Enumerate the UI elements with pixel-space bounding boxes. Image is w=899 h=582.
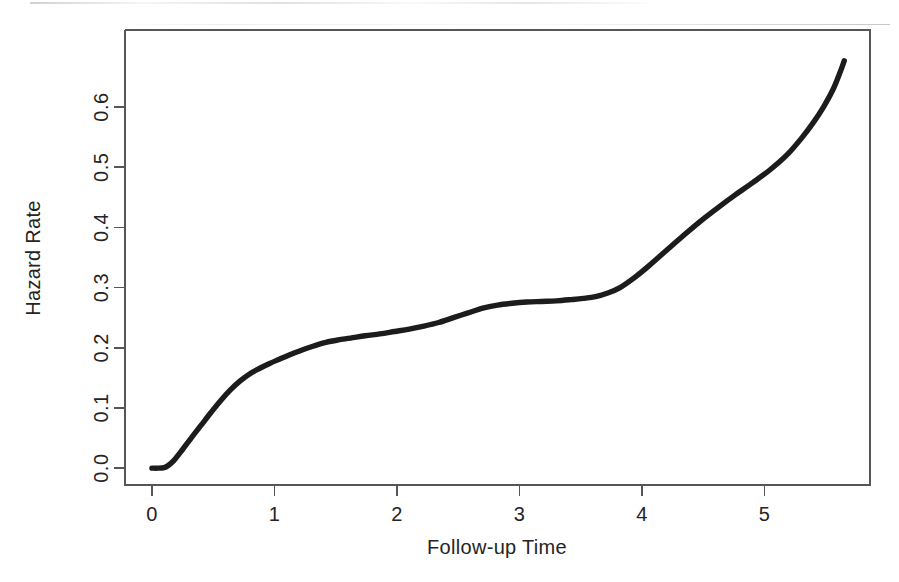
x-axis-tick-labels: 012345 [146,503,770,525]
x-axis-title: Follow-up Time [427,536,567,558]
y-tick-label: 0.5 [90,153,112,182]
y-axis-ticks [114,107,125,468]
x-axis-ticks [152,485,765,496]
hazard-rate-plot: 012345 0.00.10.20.30.40.50.6 Follow-up T… [0,0,899,582]
y-tick-label: 0.6 [90,92,112,121]
y-tick-label: 0.0 [90,453,112,482]
y-tick-label: 0.3 [90,273,112,302]
hazard-rate-chart-figure: 012345 0.00.10.20.30.40.50.6 Follow-up T… [0,0,899,582]
x-tick-label: 1 [269,503,281,525]
y-axis-title: Hazard Rate [22,200,44,316]
x-tick-label: 4 [636,503,648,525]
x-tick-label: 0 [146,503,158,525]
x-tick-label: 5 [759,503,771,525]
y-tick-label: 0.4 [90,213,112,242]
y-axis-tick-labels: 0.00.10.20.30.40.50.6 [90,92,112,482]
x-tick-label: 2 [391,503,403,525]
y-tick-label: 0.1 [90,393,112,422]
x-tick-label: 3 [514,503,526,525]
hazard-rate-curve [152,61,844,469]
y-tick-label: 0.2 [90,333,112,362]
plot-box-border [125,30,870,485]
